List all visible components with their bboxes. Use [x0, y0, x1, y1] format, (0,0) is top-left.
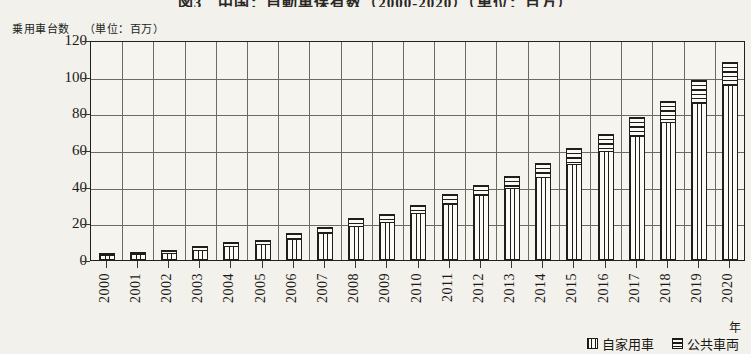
bar-segment-public-vehicles — [660, 101, 676, 123]
gridline-horizontal — [91, 79, 744, 80]
stacked-bar — [348, 218, 364, 260]
x-axis-tick-label-2004: 2004 — [221, 273, 239, 325]
stacked-bar — [598, 134, 614, 260]
x-axis-tick-mark — [106, 261, 107, 268]
bar-segment-public-vehicles — [629, 117, 645, 137]
gridline-vertical — [278, 42, 279, 260]
stacked-bar — [317, 227, 333, 260]
stacked-bar — [286, 233, 302, 260]
stacked-bar — [192, 246, 208, 260]
bar-segment-private-cars — [192, 251, 208, 260]
x-axis-tick-label-2001: 2001 — [128, 273, 146, 325]
legend-label-private-cars: 自家用車 — [602, 334, 654, 353]
x-axis-tick-mark — [729, 261, 730, 268]
bar-segment-private-cars — [566, 165, 582, 260]
stacked-bar — [504, 176, 520, 260]
bar-segment-private-cars — [442, 205, 458, 260]
gridline-vertical — [216, 42, 217, 260]
x-axis-tick-mark — [542, 261, 543, 268]
y-axis-tick-label: 120 — [27, 32, 87, 49]
bar-segment-public-vehicles — [566, 148, 582, 165]
x-axis-tick-mark — [386, 261, 387, 268]
y-axis-tick-mark — [82, 41, 90, 42]
stacked-bar — [691, 80, 707, 260]
legend-item-public-vehicles: 公共車両 — [672, 334, 739, 353]
gridline-vertical — [185, 42, 186, 260]
bar-group-2018 — [652, 101, 683, 261]
y-axis-tick-mark — [82, 224, 90, 225]
chart-plot-area — [90, 41, 745, 261]
x-axis-tick-mark — [324, 261, 325, 268]
bar-group-2007 — [309, 227, 340, 260]
x-axis-tick-mark — [293, 261, 294, 268]
bar-segment-private-cars — [691, 104, 707, 260]
y-axis-tick-mark — [82, 188, 90, 189]
x-axis-tick-label-2003: 2003 — [190, 273, 208, 325]
x-axis-tick-label-2006: 2006 — [284, 273, 302, 325]
horizontal-stripe-swatch-icon — [672, 338, 683, 349]
legend-item-private-cars: 自家用車 — [587, 334, 654, 353]
bar-segment-public-vehicles — [598, 134, 614, 152]
gridline-vertical — [122, 42, 123, 260]
bar-segment-private-cars — [410, 214, 426, 260]
x-axis-tick-mark — [698, 261, 699, 268]
bar-segment-public-vehicles — [691, 80, 707, 104]
x-axis-tick-label-2011: 2011 — [440, 273, 458, 325]
bar-segment-public-vehicles — [722, 62, 738, 86]
bar-segment-public-vehicles — [379, 214, 395, 223]
stacked-bar — [473, 185, 489, 260]
x-axis-tick-label-2010: 2010 — [409, 273, 427, 325]
x-axis-tick-label-2018: 2018 — [658, 273, 676, 325]
x-axis-tick-mark — [168, 261, 169, 268]
x-axis-tick-label-2009: 2009 — [377, 273, 395, 325]
gridline-vertical — [153, 42, 154, 260]
x-axis-tick-label-2012: 2012 — [471, 273, 489, 325]
x-axis-tick-mark — [418, 261, 419, 268]
bar-segment-private-cars — [223, 247, 239, 260]
bar-segment-private-cars — [660, 123, 676, 261]
bar-group-2014 — [528, 163, 559, 260]
stacked-bar — [410, 205, 426, 260]
bar-segment-private-cars — [317, 234, 333, 260]
stacked-bar — [722, 62, 738, 260]
bar-segment-public-vehicles — [442, 194, 458, 205]
x-axis-tick-mark — [262, 261, 263, 268]
bar-segment-private-cars — [379, 223, 395, 260]
stacked-bar — [130, 252, 146, 260]
bar-group-2020 — [715, 62, 746, 260]
legend-label-public-vehicles: 公共車両 — [687, 334, 739, 353]
x-axis-tick-mark — [605, 261, 606, 268]
x-axis-tick-label-2002: 2002 — [159, 273, 177, 325]
x-axis-tick-mark — [230, 261, 231, 268]
stacked-bar — [161, 250, 177, 260]
gridline-vertical — [247, 42, 248, 260]
x-axis-tick-mark — [137, 261, 138, 268]
bar-group-2004 — [216, 242, 247, 260]
bar-segment-public-vehicles — [535, 163, 551, 178]
y-axis-tick-label: 0 — [27, 252, 87, 269]
bar-group-2003 — [185, 246, 216, 260]
x-axis-tick-mark — [199, 261, 200, 268]
y-axis-tick-mark — [82, 151, 90, 152]
stacked-bar — [223, 242, 239, 260]
y-axis-tick-label: 20 — [27, 215, 87, 232]
bar-group-2009 — [372, 214, 403, 260]
stacked-bar — [99, 253, 115, 260]
chart-legend: 自家用車 公共車両 — [587, 334, 739, 353]
figure-title: 図3 中国：自動車保有数（2000-2020）（単位：百万） — [0, 0, 751, 7]
x-axis-tick-label-2007: 2007 — [315, 273, 333, 325]
bar-segment-private-cars — [161, 254, 177, 260]
bar-segment-public-vehicles — [410, 205, 426, 214]
bar-segment-public-vehicles — [504, 176, 520, 189]
x-axis-tick-label-2016: 2016 — [596, 273, 614, 325]
x-axis-tick-label-2008: 2008 — [346, 273, 364, 325]
stacked-bar — [442, 194, 458, 260]
x-axis-tick-mark — [667, 261, 668, 268]
bar-group-2016 — [590, 134, 621, 260]
bar-group-2005 — [247, 240, 278, 260]
y-axis-tick-label: 100 — [27, 69, 87, 86]
stacked-bar — [255, 240, 271, 260]
bar-segment-private-cars — [629, 137, 645, 260]
y-axis-tick-label: 60 — [27, 142, 87, 159]
bar-group-2011 — [434, 194, 465, 260]
